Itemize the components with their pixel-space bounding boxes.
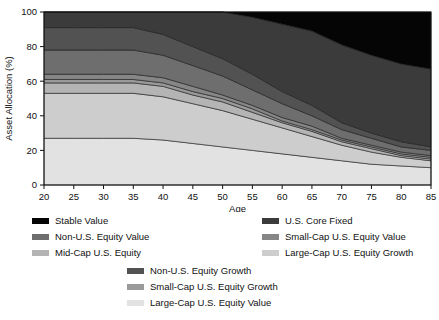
legend-item-label: Small-Cap U.S. Equity Value [285,232,406,242]
x-axis-tick-label: 25 [68,191,79,202]
y-axis-label: Asset Allocation (%) [3,56,14,140]
x-axis-tick-label: 60 [277,191,288,202]
x-axis-tick-label: 75 [366,191,377,202]
x-axis-label: Age [229,203,246,212]
legend-item-label: Large-Cap U.S. Equity Value [150,298,271,308]
x-axis-tick-label: 55 [247,191,258,202]
legend-item-stable-value: Stable Value [32,216,108,226]
legend-item-small-cap-us-equity-growth: Small-Cap U.S. Equity Growth [127,282,278,292]
chart-figure: 0204060801002025303540455055606570758085… [0,0,439,320]
legend-swatch-icon [262,250,279,256]
legend-item-mid-cap-us-equity: Mid-Cap U.S. Equity [32,248,141,258]
x-axis-tick-label: 70 [336,191,347,202]
x-axis-tick-label: 30 [98,191,109,202]
legend-item-label: Non-U.S. Equity Growth [150,266,251,276]
y-axis-tick-label: 20 [26,145,37,156]
legend-item-label: U.S. Core Fixed [285,216,353,226]
legend-swatch-icon [32,218,49,224]
x-axis-tick-label: 35 [128,191,139,202]
legend-item-label: Small-Cap U.S. Equity Growth [150,282,278,292]
y-axis-tick-label: 40 [26,110,37,121]
legend-item-us-core-fixed: U.S. Core Fixed [262,216,353,226]
legend-item-large-cap-us-equity-value: Large-Cap U.S. Equity Value [127,298,271,308]
x-axis-tick-label: 80 [396,191,407,202]
x-axis-tick-label: 85 [426,191,437,202]
x-axis-tick-label: 40 [158,191,169,202]
x-axis-tick-label: 20 [39,191,50,202]
legend-item-non-us-equity-growth: Non-U.S. Equity Growth [127,266,251,276]
y-axis-tick-label: 0 [32,179,37,190]
y-axis-tick-label: 80 [26,41,37,52]
legend-swatch-icon [32,234,49,240]
asset-allocation-area-chart: 0204060801002025303540455055606570758085… [0,0,439,212]
legend-item-label: Stable Value [55,216,108,226]
legend-swatch-icon [32,250,49,256]
legend-item-small-cap-us-equity-value: Small-Cap U.S. Equity Value [262,232,406,242]
legend-swatch-icon [127,268,144,274]
legend-swatch-icon [262,234,279,240]
legend-swatch-icon [127,300,144,306]
y-axis-tick-label: 60 [26,76,37,87]
legend-item-label: Non-U.S. Equity Value [55,232,149,242]
legend-item-non-us-equity-value: Non-U.S. Equity Value [32,232,149,242]
y-axis-tick-label: 100 [21,6,37,17]
legend-swatch-icon [127,284,144,290]
x-axis-tick-label: 50 [217,191,228,202]
x-axis-tick-label: 65 [307,191,318,202]
legend-item-large-cap-us-equity-growth: Large-Cap U.S. Equity Growth [262,248,413,258]
legend-item-label: Mid-Cap U.S. Equity [55,248,141,258]
legend-item-label: Large-Cap U.S. Equity Growth [285,248,413,258]
x-axis-tick-label: 45 [188,191,199,202]
legend-swatch-icon [262,218,279,224]
chart-legend: Stable Value Non-U.S. Equity Value Mid-C… [0,212,439,320]
